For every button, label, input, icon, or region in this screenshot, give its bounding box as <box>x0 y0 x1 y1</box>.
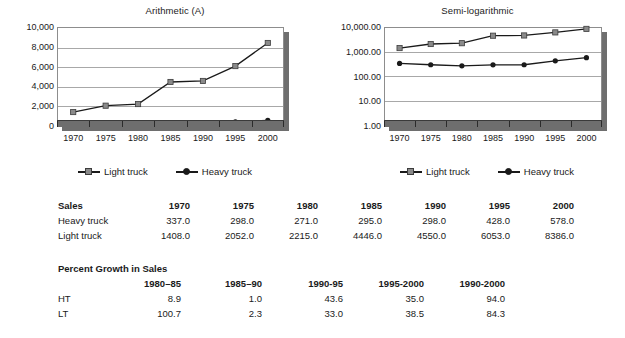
legend-item-heavy-truck[interactable]: Heavy truck <box>176 166 252 177</box>
legend-label: Heavy truck <box>524 166 574 177</box>
x-axis-tick-label: 1980 <box>452 133 472 143</box>
table-column-header: 1990 <box>382 198 446 213</box>
table-cell: 38.5 <box>343 306 424 321</box>
legend-label: Light truck <box>104 166 148 177</box>
table-cell: 1.0 <box>181 291 262 306</box>
table-cell: 43.6 <box>262 291 343 306</box>
table-row-label: Heavy truck <box>58 213 126 228</box>
x-axis-tick-label: 1975 <box>421 133 441 143</box>
x-axis-tick <box>283 121 284 127</box>
data-point-light-truck <box>135 101 140 106</box>
table-column-header: 1990-2000 <box>424 276 505 291</box>
table-column-header: 1970 <box>126 198 190 213</box>
x-axis-tick-label: 1995 <box>545 133 565 143</box>
data-point-light-truck <box>103 103 108 108</box>
data-point-light-truck <box>200 78 205 83</box>
sales-table-header: Sales1970197519801985199019952000 <box>58 198 574 213</box>
table-corner-header: Sales <box>58 198 126 213</box>
x-axis-tick <box>446 121 447 127</box>
table-column-header: 2000 <box>510 198 574 213</box>
x-axis-tick <box>601 121 602 127</box>
data-point-light-truck <box>584 26 589 31</box>
data-point-light-truck <box>459 41 464 46</box>
x-axis-tick <box>187 121 188 127</box>
legend-item-light-truck[interactable]: Light truck <box>78 166 148 177</box>
x-axis-tick <box>509 121 510 127</box>
table-cell: 337.0 <box>126 213 190 228</box>
table-column-header: 1990-95 <box>262 276 343 291</box>
table-column-header: 1985–90 <box>181 276 262 291</box>
table-cell: 2052.0 <box>190 228 254 243</box>
table-row: 1980–851985–901990-951995-20001990-2000 <box>58 276 505 291</box>
x-axis-tick <box>57 121 58 127</box>
arithmetic-y-axis-labels: 10,0008,0006,0004,0002,0000 <box>2 27 54 126</box>
x-axis-tick <box>415 121 416 127</box>
x-axis-tick <box>219 121 220 127</box>
data-point-light-truck <box>265 40 270 45</box>
data-point-light-truck <box>71 109 76 114</box>
table-row: Light truck1408.02052.02215.04446.04550.… <box>58 228 574 243</box>
data-point-light-truck <box>490 33 495 38</box>
x-axis-tick <box>477 121 478 127</box>
table-row-label: HT <box>58 291 100 306</box>
y-axis-tick-label: 100.00 <box>353 72 381 82</box>
table-cell: 2.3 <box>181 306 262 321</box>
legend-label: Light truck <box>426 166 470 177</box>
x-axis-tick-label: 2000 <box>258 133 278 143</box>
x-axis-tick <box>89 121 90 127</box>
x-axis-tick-label: 1985 <box>483 133 503 143</box>
y-axis-tick-label: 10,000 <box>26 22 54 32</box>
arithmetic-x-axis <box>57 120 284 127</box>
semilog-legend: Light truckHeavy truck <box>400 166 574 177</box>
y-axis-tick-label: 6,000 <box>31 62 54 72</box>
table-cell: 271.0 <box>254 213 318 228</box>
semilog-x-axis <box>384 120 602 127</box>
data-point-light-truck <box>168 79 173 84</box>
table-cell: 428.0 <box>446 213 510 228</box>
table-row-label: Light truck <box>58 228 126 243</box>
y-axis-tick-label: 1,000.00 <box>346 47 381 57</box>
sales-table-body: Heavy truck337.0298.0271.0295.0298.0428.… <box>58 213 574 243</box>
table-column-header: 1995 <box>446 198 510 213</box>
legend-square-marker-icon <box>400 167 422 176</box>
x-axis-tick-label: 1975 <box>96 133 116 143</box>
y-axis-tick-label: 10,000.00 <box>341 22 381 32</box>
table-cell: 35.0 <box>343 291 424 306</box>
table-cell: 94.0 <box>424 291 505 306</box>
table-row-label: LT <box>58 306 100 321</box>
data-point-heavy-truck <box>397 61 402 66</box>
table-row: Sales1970197519801985199019952000 <box>58 198 574 213</box>
x-axis-tick-label: 1990 <box>193 133 213 143</box>
table-cell: 100.7 <box>100 306 181 321</box>
table-column-header: 1985 <box>318 198 382 213</box>
legend-item-heavy-truck[interactable]: Heavy truck <box>498 166 574 177</box>
table-cell: 4550.0 <box>382 228 446 243</box>
table-row: Heavy truck337.0298.0271.0295.0298.0428.… <box>58 213 574 228</box>
semilog-y-axis-labels: 10,000.001,000.00100.0010.001.00 <box>325 27 381 126</box>
growth-table-caption: Percent Growth in Sales <box>58 261 167 276</box>
arithmetic-chart-title: Arithmetic (A) <box>0 5 320 16</box>
table-cell: 578.0 <box>510 213 574 228</box>
series-line-light-truck <box>73 43 268 112</box>
table-cell: 2215.0 <box>254 228 318 243</box>
x-axis-tick-label: 1990 <box>514 133 534 143</box>
legend-item-light-truck[interactable]: Light truck <box>400 166 470 177</box>
data-point-light-truck <box>428 41 433 46</box>
data-point-light-truck <box>522 33 527 38</box>
x-axis-tick <box>122 121 123 127</box>
table-cell: 4446.0 <box>318 228 382 243</box>
data-point-heavy-truck <box>553 58 558 63</box>
x-axis-tick-label: 1985 <box>160 133 180 143</box>
table-cell: 33.0 <box>262 306 343 321</box>
table-cell: 295.0 <box>318 213 382 228</box>
legend-circle-marker-icon <box>176 167 198 176</box>
table-row: HT8.91.043.635.094.0 <box>58 291 505 306</box>
table-cell: 298.0 <box>190 213 254 228</box>
y-axis-tick-label: 2,000 <box>31 101 54 111</box>
legend-square-marker-icon <box>78 167 100 176</box>
x-axis-tick <box>384 121 385 127</box>
arithmetic-chart: Arithmetic (A) 10,0008,0006,0004,0002,00… <box>0 0 320 190</box>
table-cell: 6053.0 <box>446 228 510 243</box>
y-axis-tick-label: 10.00 <box>358 96 381 106</box>
data-point-heavy-truck <box>428 62 433 67</box>
